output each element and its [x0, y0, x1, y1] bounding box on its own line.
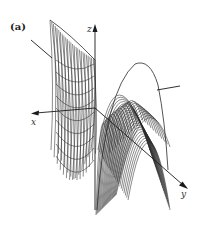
mesh-line: [99, 97, 150, 153]
x-axis-back: [31, 40, 52, 58]
mesh-line: [73, 46, 76, 180]
mesh-line: [76, 48, 79, 178]
mesh-line: [56, 84, 94, 95]
x-axis-arrowhead: [31, 111, 39, 116]
surface-plot: [0, 0, 198, 232]
z-axis-arrowhead: [93, 24, 98, 32]
z-axis-label: z: [87, 24, 92, 34]
panel-label: (a): [10, 21, 26, 32]
mesh-line: [124, 136, 167, 202]
mesh-line: [56, 96, 94, 108]
y-axis-label: y: [181, 189, 186, 199]
mesh-line: [50, 20, 53, 150]
y-axis-back: [157, 86, 180, 90]
mesh-line: [125, 138, 168, 204]
mesh-line: [128, 142, 170, 210]
mesh-line: [127, 140, 170, 207]
x-axis-label: x: [31, 117, 36, 127]
wireframe-mesh: [50, 20, 170, 215]
